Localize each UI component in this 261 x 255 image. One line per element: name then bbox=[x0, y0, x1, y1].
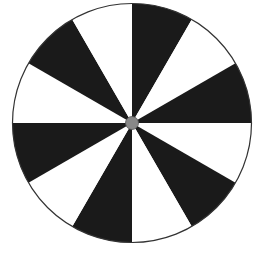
spinner-wheel bbox=[0, 0, 261, 255]
spinner-hub bbox=[126, 117, 139, 130]
